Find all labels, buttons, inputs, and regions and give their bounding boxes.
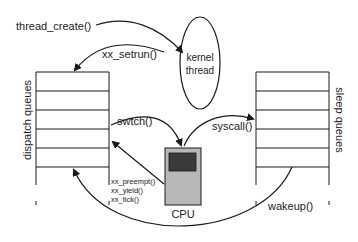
sleep-queues — [256, 72, 329, 205]
dispatch-queues-label: dispatch queues — [21, 79, 33, 160]
kernel-thread-label-line1: kernel — [186, 52, 213, 63]
cpu-node — [165, 148, 201, 205]
dispatch-queues — [36, 72, 109, 205]
syscall-label: syscall() — [212, 120, 252, 132]
thread-create-label: thread_create() — [16, 20, 91, 32]
xx-yield-label: xx_yield() — [111, 186, 144, 195]
wakeup-label: wakeup() — [267, 200, 313, 212]
kernel-thread-node — [180, 17, 220, 109]
sleep-queues-label: sleep queues — [334, 87, 346, 153]
kernel-thread-label-line2: thread — [186, 65, 214, 76]
xx-preempt-label: xx_preempt() — [111, 177, 156, 186]
xx-setrun-label: xx_setrun() — [102, 48, 157, 60]
cpu-screen — [169, 153, 196, 171]
scheduler-diagram: thread_create() kernel thread xx_setrun(… — [0, 0, 358, 242]
cpu-label: CPU — [171, 208, 194, 220]
xx-tick-label: xx_tick() — [111, 195, 139, 204]
swtch-label: swtch() — [117, 115, 152, 127]
